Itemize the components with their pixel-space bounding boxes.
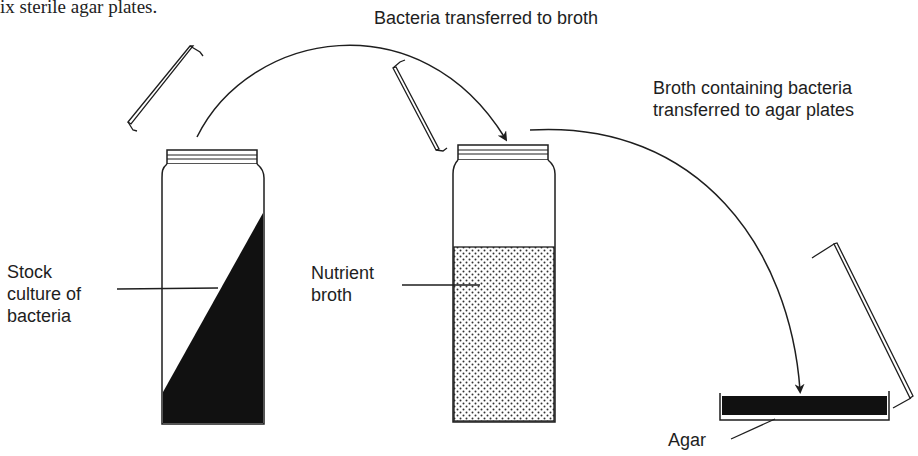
spreader-icon-1	[128, 46, 203, 131]
label-broth-line2: broth	[311, 285, 352, 306]
label-broth-line1: Nutrient	[311, 263, 374, 284]
label-broth-transfer-line1: Broth containing bacteria	[653, 78, 852, 99]
arrow-transfer-to-agar	[530, 129, 800, 390]
arrow-transfer-to-broth	[197, 45, 505, 138]
agar-pointer-line	[731, 419, 775, 439]
label-broth-transfer-line2: transferred to agar plates	[653, 100, 854, 121]
spreader-icon-2	[393, 60, 447, 151]
nutrient-broth-jar	[453, 145, 555, 422]
label-bacteria-transferred: Bacteria transferred to broth	[374, 8, 598, 29]
diagram-graphics	[0, 0, 918, 456]
label-stock-line2: culture of	[7, 284, 81, 305]
label-stock-line3: bacteria	[7, 306, 71, 327]
agar-plate	[720, 391, 889, 420]
diagram-bacteria-transfer: ix sterile agar plates.	[0, 0, 918, 456]
spreader-icon-3	[812, 243, 913, 408]
stock-culture-jar	[162, 150, 264, 424]
label-agar: Agar	[668, 430, 706, 451]
label-stock-line1: Stock	[7, 262, 52, 283]
